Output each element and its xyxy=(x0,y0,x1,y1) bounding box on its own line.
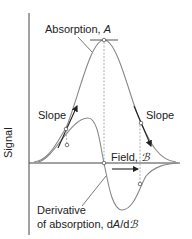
zero-crossing-point xyxy=(102,161,106,165)
y-axis-label: Signal xyxy=(2,127,14,158)
peak-point xyxy=(102,38,106,42)
absorption-derivative-diagram: Signal Absorption, A Slope Slope Field, … xyxy=(0,0,192,239)
absorption-leader xyxy=(78,37,92,52)
derivative-leader xyxy=(82,176,106,206)
derivative-right-point xyxy=(138,182,142,186)
derivative-left-point xyxy=(65,143,69,147)
slope-left-point xyxy=(64,127,68,131)
derivative-label-line1: Derivative xyxy=(37,205,86,216)
derivative-label-line2: of absorption, dA/dℬ xyxy=(37,219,138,230)
derivative-curve xyxy=(38,118,178,210)
slope-left-label: Slope xyxy=(38,110,66,121)
slope-right-point xyxy=(139,121,143,125)
absorption-label: Absorption, A xyxy=(45,24,111,35)
absorption-curve xyxy=(34,40,176,162)
slope-right-label: Slope xyxy=(146,110,174,121)
field-label: Field, ℬ xyxy=(111,152,150,163)
